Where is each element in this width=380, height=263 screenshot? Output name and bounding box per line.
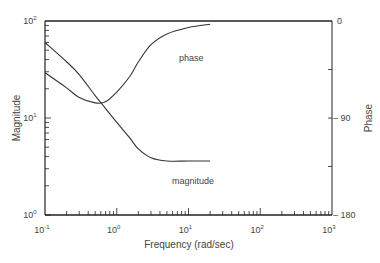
y-right-tick-label: – 90 [333, 113, 351, 123]
axis-labels: Frequency (rad/sec) Magnitude Phase phas… [11, 53, 374, 250]
y-left-tick-exponent: 2 [33, 15, 37, 21]
y-left-tick-exponent: 0 [33, 209, 37, 215]
bode-plot: Frequency (rad/sec) Magnitude Phase phas… [0, 0, 380, 263]
x-tick-label: 102 [251, 224, 265, 235]
x-tick-label: 101 [179, 224, 193, 235]
y-left-tick-exponent: 1 [33, 112, 37, 118]
y-left-tick-label: 101 [23, 112, 37, 123]
y-axis-right-label: Phase [363, 103, 374, 132]
x-axis-label: Frequency (rad/sec) [144, 239, 233, 250]
phase-curve [45, 24, 210, 103]
phase-annotation: phase [179, 53, 204, 63]
y-left-tick-label: 100 [23, 209, 37, 220]
tick-labels: 10-11001011021031021011000– 90– 180 [23, 15, 355, 235]
y-right-tick-label: – 180 [333, 210, 356, 220]
x-tick-label: 10-1 [34, 224, 50, 235]
magnitude-annotation: magnitude [172, 176, 214, 186]
x-tick-label: 103 [322, 224, 336, 235]
y-axis-left-label: Magnitude [11, 94, 22, 141]
y-left-tick-label: 102 [23, 15, 37, 26]
x-tick-exponent: -1 [44, 224, 50, 230]
x-tick-exponent: 0 [117, 224, 121, 230]
curves [45, 24, 210, 161]
x-tick-exponent: 3 [332, 224, 336, 230]
x-tick-exponent: 1 [189, 224, 193, 230]
x-tick-exponent: 2 [261, 224, 265, 230]
y-right-tick-label: 0 [337, 16, 342, 26]
x-tick-label: 100 [107, 224, 121, 235]
